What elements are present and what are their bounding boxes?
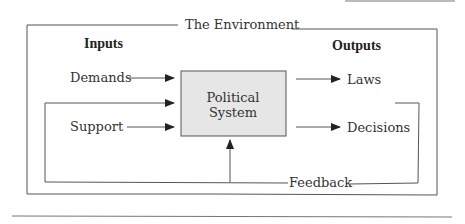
- outputs-heading: Outputs: [332, 38, 382, 53]
- output-decisions: Decisions: [347, 120, 410, 135]
- political-system-diagram: The Environment Inputs Outputs Political…: [0, 0, 465, 224]
- system-label-line2: System: [209, 105, 257, 120]
- system-label-line1: Political: [207, 90, 260, 105]
- input-demands: Demands: [70, 70, 132, 85]
- output-laws: Laws: [347, 72, 381, 87]
- feedback-label: Feedback: [289, 175, 352, 190]
- inputs-heading: Inputs: [84, 36, 123, 51]
- input-support: Support: [70, 119, 124, 134]
- environment-title: The Environment: [185, 17, 300, 32]
- bottom-rule: [12, 216, 452, 217]
- political-system-box: Political System: [181, 71, 286, 136]
